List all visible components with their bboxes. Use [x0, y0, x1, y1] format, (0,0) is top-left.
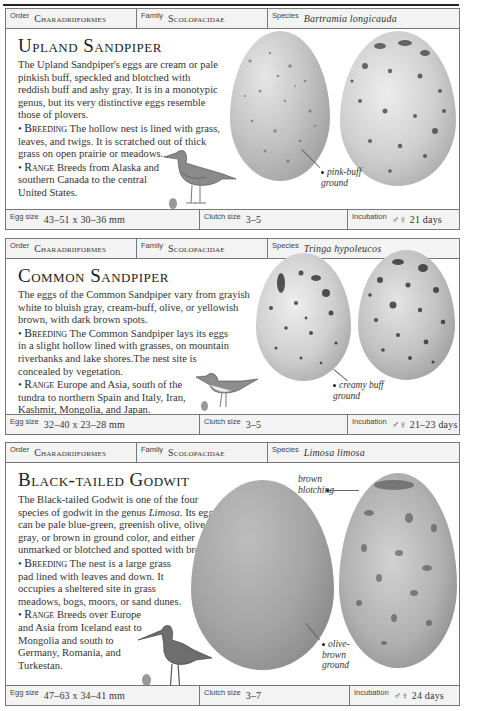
clutch-size-cell: Clutch size3–7: [200, 686, 350, 705]
egg-image-2: [358, 250, 455, 380]
order-cell: OrderCharadriiformes: [6, 443, 137, 462]
order-value: Charadriiformes: [34, 243, 106, 254]
stats-footer: Egg size43–51 x 30–36 mm Clutch size3–5 …: [6, 209, 459, 229]
breeding-heading: Breeding: [24, 327, 67, 339]
clutch-size-value: 3–7: [246, 690, 262, 701]
callout-creamy-buff-ground: creamy buff ground: [333, 380, 393, 401]
clutch-size-value: 3–5: [246, 214, 262, 225]
actual-size-egg-icon: [169, 198, 177, 209]
incubation-cell: Incubation♂♀ 21 days: [348, 210, 459, 229]
egg-size-value: 32–40 x 23–28 mm: [44, 419, 125, 430]
family-cell: FamilyScolopacidae: [137, 443, 268, 462]
egg-size-cell: Egg size43–51 x 30–36 mm: [6, 210, 200, 229]
taxonomy-header: OrderCharadriiformes FamilyScolopacidae …: [6, 443, 459, 463]
egg-size-cell: Egg size47–63 x 34–41 mm: [6, 686, 200, 705]
callout-pink-buff-ground: pink-buff ground: [321, 167, 381, 188]
callout-leader-line: [329, 490, 359, 491]
order-cell: OrderCharadriiformes: [6, 9, 137, 28]
intro-text: The Upland Sandpiper's eggs are cream or…: [18, 59, 223, 122]
stats-footer: Egg size47–63 x 34–41 mm Clutch size3–7 …: [6, 685, 459, 705]
incubation-value: ♂♀ 21–23 days: [392, 419, 458, 430]
actual-size-egg-icon: [201, 401, 208, 411]
egg-image-1: [256, 253, 351, 381]
callout-brown-blotching: brown blotching: [298, 474, 348, 495]
order-cell: OrderCharadriiformes: [6, 239, 137, 258]
taxonomy-header: OrderCharadriiformes FamilyScolopacidae …: [6, 9, 459, 29]
family-cell: FamilyScolopacidae: [137, 9, 268, 28]
clutch-size-cell: Clutch size3–5: [200, 415, 348, 434]
incubation-cell: Incubation♂♀ 24 days: [350, 686, 459, 705]
family-value: Scolopacidae: [168, 243, 225, 254]
clutch-size-value: 3–5: [246, 419, 262, 430]
stats-footer: Egg size32–40 x 23–28 mm Clutch size3–5 …: [6, 414, 459, 434]
egg-image-2: [340, 31, 456, 186]
order-value: Charadriiformes: [34, 13, 106, 24]
range-heading: Range: [24, 378, 54, 390]
breeding-heading: Breeding: [24, 122, 67, 134]
page-top-rule: [3, 4, 459, 6]
order-value: Charadriiformes: [34, 447, 106, 458]
egg-size-cell: Egg size32–40 x 23–28 mm: [6, 415, 200, 434]
incubation-value: ♂♀ 21 days: [392, 214, 442, 225]
entry-common-sandpiper: OrderCharadriiformes FamilyScolopacidae …: [5, 238, 460, 435]
entry-black-tailed-godwit: OrderCharadriiformes FamilyScolopacidae …: [5, 442, 460, 706]
callout-olive-brown-ground: olive-brown ground: [322, 639, 362, 671]
egg-size-value: 43–51 x 30–36 mm: [44, 214, 125, 225]
entry-title: Black-tailed Godwit: [18, 469, 190, 491]
family-value: Scolopacidae: [168, 13, 225, 24]
species-value: Bartramia longicauda: [304, 13, 397, 24]
incubation-value: ♂♀ 24 days: [394, 690, 444, 701]
genus-name: Limosa: [149, 507, 180, 518]
egg-image-1: [230, 31, 330, 181]
species-value: Limosa limosa: [304, 447, 365, 458]
intro-text: The eggs of the Common Sandpiper vary fr…: [18, 289, 250, 327]
family-cell: FamilyScolopacidae: [137, 239, 268, 258]
range-heading: Range: [24, 161, 54, 173]
intro-text: The Black-tailed Godwit is one of the fo…: [18, 494, 224, 557]
species-cell: SpeciesBartramia longicauda: [268, 9, 459, 28]
species-cell: SpeciesLimosa limosa: [268, 443, 459, 462]
range-heading: Range: [24, 608, 54, 620]
entry-upland-sandpiper: OrderCharadriiformes FamilyScolopacidae …: [5, 8, 460, 230]
entry-title: Common Sandpiper: [18, 265, 169, 287]
entry-title: Upland Sandpiper: [18, 35, 162, 57]
incubation-cell: Incubation♂♀ 21–23 days: [348, 415, 459, 434]
clutch-size-cell: Clutch size3–5: [200, 210, 348, 229]
egg-size-value: 47–63 x 34–41 mm: [44, 690, 125, 701]
breeding-heading: Breeding: [24, 557, 67, 569]
family-value: Scolopacidae: [168, 447, 225, 458]
